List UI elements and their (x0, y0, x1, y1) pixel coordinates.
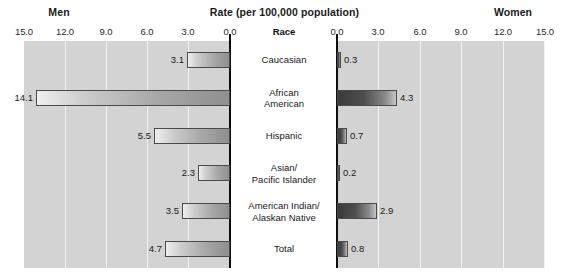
left-tick-6: 6.0 (130, 26, 164, 37)
right-tick-3: 3.0 (361, 26, 395, 37)
chart-row: 14.14.3AfricanAmerican (0, 79, 569, 117)
women-value-label: 0.7 (350, 128, 363, 144)
race-label-line: Asian/ (271, 162, 297, 173)
women-value-label: 4.3 (400, 90, 413, 106)
left-tick-3: 3.0 (171, 26, 205, 37)
race-label-line: Total (274, 243, 294, 254)
race-category-label: Total (238, 243, 330, 255)
women-bar (337, 241, 348, 257)
chart-row: 4.70.8Total (0, 230, 569, 268)
race-label-line: African (269, 86, 299, 97)
race-category-label: AfricanAmerican (238, 86, 330, 109)
women-bar (337, 203, 377, 219)
left-tick-12: 12.0 (48, 26, 82, 37)
race-category-label: Caucasian (238, 54, 330, 66)
race-category-label: Asian/Pacific Islander (238, 162, 330, 185)
women-bar (337, 128, 347, 144)
chart-row: 3.10.3Caucasian (0, 41, 569, 79)
men-bar (36, 90, 230, 106)
right-tick-6: 6.0 (403, 26, 437, 37)
men-value-label: 14.1 (15, 90, 34, 106)
men-bar (165, 241, 230, 257)
women-value-label: 0.3 (344, 52, 357, 68)
race-label-line: Pacific Islander (252, 173, 316, 184)
women-side-label: Women (478, 6, 548, 18)
men-bar (187, 52, 230, 68)
women-bar (337, 52, 341, 68)
men-bar (182, 203, 230, 219)
right-tick-15: 15.0 (528, 26, 562, 37)
men-value-label: 2.3 (182, 165, 195, 181)
race-label-line: American Indian/ (248, 200, 319, 211)
chart-header: Men Rate (per 100,000 population) Women (0, 6, 569, 20)
women-bar (337, 165, 340, 181)
men-value-label: 3.5 (166, 203, 179, 219)
women-bar (337, 90, 397, 106)
race-column-header: Race (238, 26, 330, 37)
men-value-label: 5.5 (138, 128, 151, 144)
race-label-line: Hispanic (266, 130, 302, 141)
race-category-label: Hispanic (238, 130, 330, 142)
chart-row: 3.52.9American Indian/Alaskan Native (0, 192, 569, 230)
men-value-label: 4.7 (149, 241, 162, 257)
men-bar (154, 128, 230, 144)
left-tick-15: 15.0 (7, 26, 41, 37)
race-label-line: Caucasian (262, 54, 307, 65)
women-value-label: 0.8 (351, 241, 364, 257)
race-label-line: Alaskan Native (252, 211, 315, 222)
men-bar (198, 165, 230, 181)
right-tick-12: 12.0 (486, 26, 520, 37)
chart-row: 5.50.7Hispanic (0, 117, 569, 155)
men-value-label: 3.1 (171, 52, 184, 68)
race-category-label: American Indian/Alaskan Native (238, 200, 330, 223)
women-value-label: 0.2 (343, 165, 356, 181)
right-tick-9: 9.0 (444, 26, 478, 37)
women-value-label: 2.9 (380, 203, 393, 219)
race-label-line: American (264, 98, 304, 109)
left-tick-9: 9.0 (89, 26, 123, 37)
chart-row: 2.30.2Asian/Pacific Islander (0, 154, 569, 192)
